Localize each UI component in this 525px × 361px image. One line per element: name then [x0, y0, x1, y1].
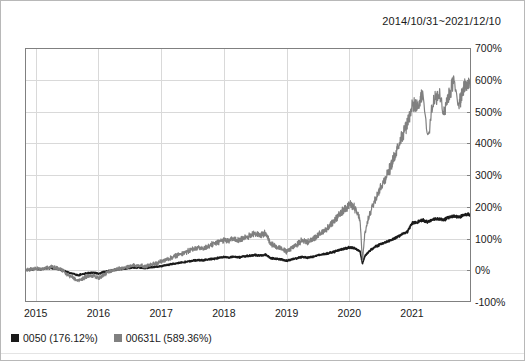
- chart-canvas: [25, 48, 471, 302]
- y-tick-label: 500%: [475, 106, 502, 118]
- x-tick-label: 2019: [275, 307, 298, 319]
- y-tick-label: 200%: [475, 201, 502, 213]
- footer-divider: [1, 353, 524, 354]
- series-lines: [25, 76, 470, 282]
- plot-area: [25, 48, 471, 302]
- y-tick-label: 0%: [475, 264, 490, 276]
- series-line-0050: [25, 213, 470, 276]
- y-tick-label: 400%: [475, 137, 502, 149]
- x-tick-label: 2021: [400, 307, 423, 319]
- legend-label: 0050 (176.12%): [23, 332, 98, 344]
- grid-lines: [25, 48, 471, 302]
- legend-label: 00631L (589.36%): [126, 332, 212, 344]
- legend-swatch-0050: [11, 334, 19, 342]
- legend-entry[interactable]: 0050 (176.12%): [11, 332, 98, 344]
- x-tick-label: 2018: [212, 307, 235, 319]
- legend-swatch-00631L: [114, 334, 122, 342]
- chart-figure: 2014/10/31~2021/12/10 700%600%500%400%30…: [0, 0, 525, 361]
- chart-date-range-title: 2014/10/31~2021/12/10: [1, 15, 501, 27]
- y-tick-label: 300%: [475, 169, 502, 181]
- legend-entry[interactable]: 00631L (589.36%): [114, 332, 212, 344]
- series-line-00631L: [25, 76, 470, 282]
- y-tick-label: -100%: [475, 296, 505, 308]
- chart-legend: 0050 (176.12%)00631L (589.36%): [11, 332, 212, 344]
- y-tick-label: 700%: [475, 42, 502, 54]
- y-tick-label: 600%: [475, 74, 502, 86]
- x-tick-label: 2015: [24, 307, 47, 319]
- x-tick-label: 2017: [149, 307, 172, 319]
- x-tick-label: 2020: [338, 307, 361, 319]
- y-tick-label: 100%: [475, 233, 502, 245]
- x-tick-label: 2016: [87, 307, 110, 319]
